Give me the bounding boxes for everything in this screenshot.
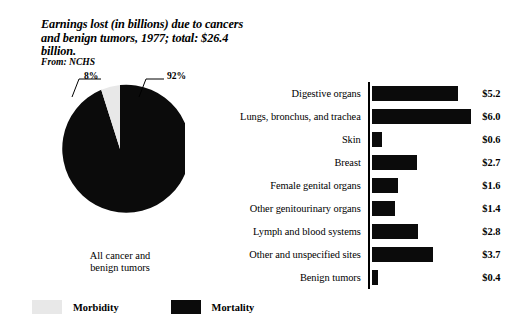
- pie-label-mortality-percent: 92%: [167, 70, 186, 81]
- bar-fill: [372, 178, 399, 193]
- bar-row: Other genitourinary organs$1.4: [236, 197, 521, 220]
- legend-item-morbidity: Morbidity: [32, 300, 119, 314]
- bar-track: [368, 220, 470, 243]
- bar-value-label: $3.7: [469, 249, 521, 260]
- bar-fill: [372, 201, 395, 216]
- pie-caption-line-1: All cancer and: [20, 250, 220, 262]
- chart-title: Earnings lost (in billions) due to cance…: [41, 18, 256, 59]
- bar-value-label: $5.2: [469, 88, 521, 99]
- bar-row: Digestive organs$5.2: [236, 82, 521, 105]
- bar-value-label: $2.7: [469, 157, 521, 168]
- legend-label-mortality: Mortality: [212, 302, 255, 313]
- bar-category-label: Skin: [236, 134, 368, 145]
- bar-category-label: Breast: [236, 157, 368, 168]
- bar-track: [368, 174, 470, 197]
- bar-fill: [372, 132, 382, 147]
- pie-svg: [55, 84, 185, 214]
- bar-value-label: $1.4: [469, 203, 521, 214]
- legend-item-mortality: Mortality: [171, 300, 255, 314]
- pie-caption-line-2: benign tumors: [20, 262, 220, 274]
- bar-track: [368, 105, 470, 128]
- chart-legend: Morbidity Mortality: [32, 300, 306, 314]
- pie-chart: [55, 84, 185, 214]
- legend-swatch-morbidity: [32, 300, 62, 314]
- bar-fill: [372, 247, 433, 262]
- bar-fill: [372, 109, 472, 124]
- bar-value-label: $2.8: [469, 226, 521, 237]
- pie-label-morbidity-percent: 8%: [84, 70, 98, 81]
- legend-label-morbidity: Morbidity: [73, 302, 119, 313]
- bar-value-label: $0.6: [469, 134, 521, 145]
- pie-caption: All cancer and benign tumors: [20, 250, 220, 273]
- bar-category-label: Lymph and blood systems: [236, 226, 368, 237]
- bar-row: Female genital organs$1.6: [236, 174, 521, 197]
- bar-fill: [372, 86, 458, 101]
- bar-track: [368, 243, 470, 266]
- chart-source: From: NCHS: [41, 56, 95, 67]
- bar-track: [368, 151, 470, 174]
- bar-category-label: Digestive organs: [236, 88, 368, 99]
- bar-row: Other and unspecified sites$3.7: [236, 243, 521, 266]
- bar-category-label: Female genital organs: [236, 180, 368, 191]
- bar-row: Lungs, bronchus, and trachea$6.0: [236, 105, 521, 128]
- bar-row: Benign tumors$0.4: [236, 266, 521, 289]
- bar-fill: [372, 270, 379, 285]
- bar-track: [368, 197, 470, 220]
- bar-value-label: $0.4: [469, 272, 521, 283]
- bar-row: Skin$0.6: [236, 128, 521, 151]
- bar-row: Lymph and blood systems$2.8: [236, 220, 521, 243]
- bar-fill: [372, 224, 419, 239]
- bar-value-label: $6.0: [469, 111, 521, 122]
- bar-category-label: Other and unspecified sites: [236, 249, 368, 260]
- bar-chart: Digestive organs$5.2Lungs, bronchus, and…: [236, 82, 521, 289]
- bar-category-label: Benign tumors: [236, 272, 368, 283]
- bar-value-label: $1.6: [469, 180, 521, 191]
- pie-slice-mortality: [62, 85, 185, 213]
- bar-category-label: Other genitourinary organs: [236, 203, 368, 214]
- bar-category-label: Lungs, bronchus, and trachea: [236, 111, 368, 122]
- legend-swatch-mortality: [171, 300, 201, 314]
- bar-fill: [372, 155, 417, 170]
- bar-track: [368, 82, 470, 105]
- bar-row: Breast$2.7: [236, 151, 521, 174]
- bar-track: [368, 266, 470, 289]
- bar-track: [368, 128, 470, 151]
